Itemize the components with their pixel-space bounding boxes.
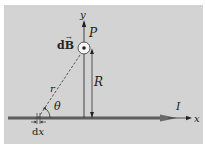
y-axis-label: y	[80, 9, 86, 20]
distance-R-label: R	[94, 77, 103, 88]
diagram-graphics	[0, 0, 205, 148]
x-axis-arrow-icon	[186, 116, 192, 120]
wire	[8, 117, 168, 120]
field-dB-label: dB→	[57, 40, 74, 51]
current-I-label: I	[176, 101, 180, 112]
field-B: B→	[65, 39, 74, 52]
y-axis-arrow-icon	[82, 20, 86, 27]
element-dx-label: dx	[32, 126, 44, 137]
point-P-label: P	[89, 28, 97, 39]
angle-theta-label: θ	[54, 101, 61, 112]
dx-left-arrow-icon	[35, 121, 38, 124]
dx-x: x	[38, 126, 44, 137]
vector-arrow-icon: →	[66, 33, 72, 44]
x-axis-label: x	[194, 113, 200, 124]
distance-R-arrow-up-icon	[90, 49, 94, 55]
field-dot-icon	[82, 46, 86, 50]
field-d: d	[57, 39, 65, 52]
dx-right-arrow-icon	[40, 121, 43, 124]
distance-r-label: r	[50, 83, 55, 94]
